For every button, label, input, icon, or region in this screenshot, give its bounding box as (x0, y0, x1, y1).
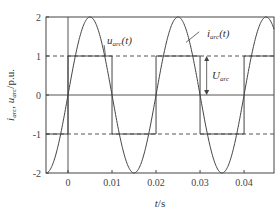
arrowhead-up-icon (204, 56, 209, 61)
y-tick-label: -1 (33, 129, 41, 140)
x-tick-label: 0 (66, 177, 71, 188)
arrowhead-down-icon (204, 90, 209, 95)
annotation-i-arc: iarc(t) (207, 27, 230, 41)
annotation-U-arc: Uarc (212, 69, 230, 83)
y-tick-label: 2 (36, 12, 41, 23)
x-tick-label: 0.02 (147, 177, 165, 188)
x-tick-label: 0.03 (191, 177, 209, 188)
y-axis-label: iarc, uarc/p.u. (4, 69, 18, 121)
y-tick-label: -2 (33, 168, 41, 179)
annotation-u-arc: uarc(t) (107, 34, 132, 48)
x-tick-label: 0.04 (235, 177, 253, 188)
chart: 00.010.020.030.04-2-1012 t/s iarc, uarc/… (0, 0, 278, 216)
axes: 00.010.020.030.04-2-1012 (33, 12, 274, 189)
plot-area (46, 17, 274, 173)
y-tick-label: 0 (36, 90, 41, 101)
x-tick-label: 0.01 (103, 177, 121, 188)
x-axis-label: t/s (155, 197, 165, 209)
y-tick-label: 1 (36, 51, 41, 62)
